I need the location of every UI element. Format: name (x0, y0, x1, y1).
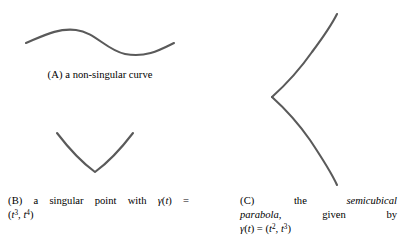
caption-c-word-parabola: parabola, (240, 209, 282, 220)
caption-a-word-2: non-singular (73, 69, 127, 80)
caption-b-word-3: point (95, 195, 117, 206)
caption-b-word-1: a (34, 195, 39, 206)
singular-point-curve-graphic (0, 110, 200, 190)
caption-c-line-1: (C) the semicubical (240, 194, 397, 208)
caption-a-word-3: curve (129, 69, 153, 80)
subfigure-b-caption: (B) a singular point with γ(t) = (t3, t4… (8, 194, 189, 222)
semicubical-parabola-upper-branch-path (272, 14, 337, 97)
caption-c-line-2: parabola, given by (240, 208, 397, 222)
caption-c-word-1: the (294, 195, 307, 206)
caption-b-line-2: (t3, t4) (8, 208, 189, 222)
caption-c-word-semicubical: semicubical (346, 195, 397, 206)
equals-sign-c: = (257, 223, 263, 234)
singular-point-curve-path (57, 133, 133, 172)
subfigure-a-label: (A) (48, 69, 63, 80)
caption-c-line-3: γ(t) = (t2, t3) (240, 222, 397, 236)
formula-c-paren-close: ) (287, 223, 291, 234)
caption-c-gamma-of-t: γ(t) (240, 223, 254, 234)
subfigure-c-curve-panel (200, 0, 403, 190)
subfigure-b-label: (B) (8, 195, 22, 206)
subfigure-a-caption: (A) a non-singular curve (8, 68, 192, 82)
caption-c-word-given: given (322, 209, 346, 220)
equals-sign-b: = (183, 195, 189, 206)
caption-b-line-1: (B) a singular point with γ(t) = (8, 194, 189, 208)
caption-b-gamma-of-t: γ(t) (158, 195, 172, 206)
non-singular-curve-path (26, 30, 174, 55)
caption-b-word-4: with (128, 195, 147, 206)
paren-close-b: ) (168, 195, 172, 206)
caption-c-formula: (t2, t3) (266, 223, 291, 234)
caption-c-word-by: by (386, 209, 397, 220)
semicubical-parabola-graphic (200, 0, 403, 190)
subfigure-b-curve-panel (0, 110, 200, 190)
paren-close-c: ) (251, 223, 255, 234)
caption-b-formula: (t3, t4) (8, 209, 33, 220)
formula-b-paren-close: ) (30, 209, 34, 220)
caption-b-word-2: singular (49, 195, 83, 206)
figure-container: (A) a non-singular curve (B) a singular … (0, 0, 403, 252)
subfigure-c-label: (C) (240, 195, 254, 206)
subfigure-c-caption: (C) the semicubical parabola, given by γ… (240, 194, 397, 237)
semicubical-parabola-lower-branch-path (272, 97, 337, 185)
